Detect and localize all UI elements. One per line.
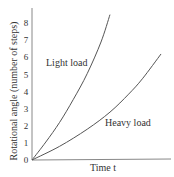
y-tick-labels: 012345678 [24, 18, 29, 165]
heavy-load-curve [32, 54, 161, 160]
y-tick-label: 6 [24, 52, 29, 62]
light-load-curve [32, 15, 110, 160]
light-load-label: Light load [46, 57, 87, 68]
y-tick-label: 8 [24, 18, 29, 28]
y-axis-label: Rotational angle (number of steps) [8, 22, 20, 161]
y-tick-label: 0 [24, 155, 29, 165]
y-tick-label: 7 [24, 35, 29, 45]
chart: 012345678 Rotational angle (number of st… [0, 0, 174, 177]
heavy-load-label: Heavy load [105, 117, 151, 128]
x-axis [32, 159, 171, 160]
y-tick-label: 5 [24, 70, 29, 80]
y-tick-label: 3 [24, 104, 29, 114]
y-tick-label: 2 [24, 121, 29, 131]
x-axis-label: Time t [90, 162, 116, 173]
y-tick-label: 1 [24, 138, 29, 148]
y-tick-label: 4 [24, 87, 29, 97]
